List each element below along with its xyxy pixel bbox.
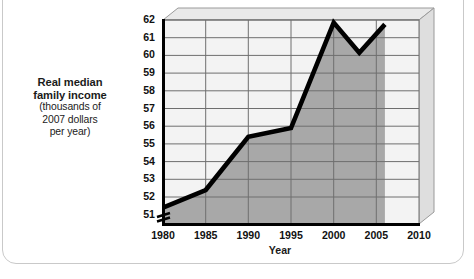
y-axis-title-note-1: (thousands of <box>6 101 134 114</box>
x-tick-1990: 1990 <box>228 229 268 241</box>
y-axis-title: Real median family income (thousands of … <box>6 76 134 139</box>
y-tick-52: 52 <box>133 191 155 201</box>
x-axis-title: Year <box>150 244 410 256</box>
y-axis-title-line-1: Real median <box>6 76 134 89</box>
box-top-face <box>163 8 434 20</box>
y-tick-58: 58 <box>133 85 155 95</box>
x-tick-2005: 2005 <box>356 229 396 241</box>
x-tick-1995: 1995 <box>271 229 311 241</box>
y-tick-55: 55 <box>133 138 155 148</box>
x-tick-2010: 2010 <box>399 229 439 241</box>
line-chart: 62 61 60 59 58 57 56 55 54 53 52 51 1980… <box>0 0 474 279</box>
y-axis-title-line-2: family income <box>6 89 134 102</box>
y-axis-title-note-3: per year) <box>6 126 134 139</box>
y-tick-62: 62 <box>133 14 155 24</box>
y-tick-61: 61 <box>133 32 155 42</box>
x-tick-1980: 1980 <box>143 229 183 241</box>
y-tick-54: 54 <box>133 156 155 166</box>
box-side-face <box>419 8 434 224</box>
y-tick-59: 59 <box>133 67 155 77</box>
y-tick-57: 57 <box>133 103 155 113</box>
y-tick-56: 56 <box>133 120 155 130</box>
y-tick-51: 51 <box>133 209 155 219</box>
x-tick-1985: 1985 <box>186 229 226 241</box>
y-axis-title-note-2: 2007 dollars <box>6 114 134 127</box>
y-tick-60: 60 <box>133 49 155 59</box>
x-tick-2000: 2000 <box>314 229 354 241</box>
y-tick-53: 53 <box>133 173 155 183</box>
